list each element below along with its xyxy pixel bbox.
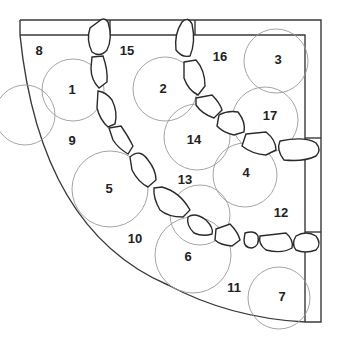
area-label-12: 12 — [274, 205, 288, 220]
stepping-stone — [279, 139, 319, 161]
stepping-stone — [184, 60, 205, 95]
area-label-16: 16 — [213, 49, 227, 64]
area-label-13: 13 — [178, 172, 192, 187]
area-label-14: 14 — [187, 132, 202, 147]
plant-label-6: 6 — [184, 249, 191, 264]
area-label-11: 11 — [227, 280, 241, 295]
stepping-stone — [154, 187, 190, 217]
stepping-stone — [244, 232, 258, 248]
stepping-stone — [294, 233, 320, 252]
plant-label-5: 5 — [105, 181, 112, 196]
stepping-stone — [97, 91, 116, 127]
stepping-stone — [109, 126, 133, 154]
stepping-stone — [260, 233, 293, 252]
stepping-stone — [217, 111, 244, 135]
stepping-stone — [176, 19, 194, 56]
area-label-9: 9 — [68, 133, 75, 148]
stepping-stone — [242, 132, 276, 155]
garden-plan: 1 2 3 4 5 6 7 8 9 10 11 12 13 14 15 16 1… — [0, 0, 338, 339]
stepping-stone — [215, 224, 240, 246]
plant-label-4: 4 — [242, 165, 250, 180]
stepping-stone — [130, 153, 156, 187]
area-label-10: 10 — [128, 231, 142, 246]
area-label-15: 15 — [120, 43, 134, 58]
stepping-stone — [196, 95, 222, 118]
area-label-17: 17 — [263, 108, 277, 123]
plant-label-1: 1 — [68, 82, 75, 97]
plant-label-2: 2 — [159, 81, 166, 96]
plant-circle-8-edge — [0, 85, 55, 145]
plant-label-7: 7 — [278, 289, 285, 304]
area-label-8: 8 — [35, 43, 42, 58]
stepping-stone — [188, 215, 213, 235]
inner-wall — [20, 35, 305, 322]
stepping-stone — [91, 56, 107, 88]
stepping-stone — [88, 19, 110, 55]
plant-label-3: 3 — [274, 52, 281, 67]
curved-edge — [20, 20, 305, 322]
